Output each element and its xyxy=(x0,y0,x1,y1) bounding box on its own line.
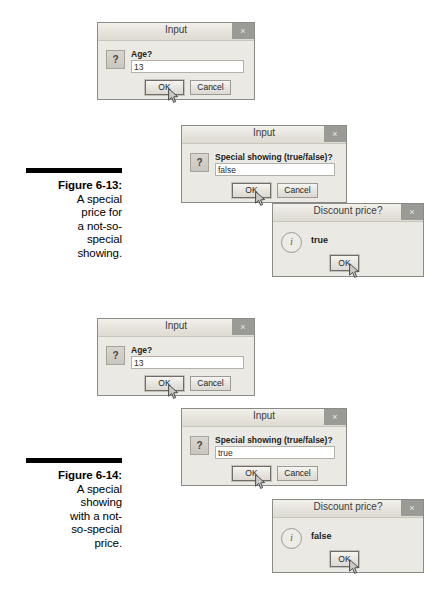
caption-line: special xyxy=(26,233,122,247)
field-label: Special showing (true/false)? xyxy=(215,152,333,162)
ok-button[interactable]: OK xyxy=(232,183,271,198)
ok-button[interactable]: OK xyxy=(330,551,359,567)
dialog-body: ? Age? 13 OK Cancel xyxy=(98,337,254,395)
dialog-discount-price-1[interactable]: Discount price? × i true OK xyxy=(272,203,424,277)
dialog-body: i true OK xyxy=(273,222,423,276)
info-icon: i xyxy=(281,232,302,253)
dialog-input-age-2[interactable]: Input × ? Age? 13 OK Cancel xyxy=(97,318,255,396)
close-icon[interactable]: × xyxy=(324,126,346,142)
caption-line: a not-so- xyxy=(26,220,122,234)
field-label: Age? xyxy=(131,49,152,59)
caption-line: price. xyxy=(26,537,122,551)
caption-text: Figure 6-13: A special price for a not-s… xyxy=(26,179,122,261)
dialog-title: Input xyxy=(98,320,254,331)
caption-rule xyxy=(26,458,122,463)
caption-line: showing xyxy=(26,496,122,510)
titlebar: Discount price? × xyxy=(273,500,423,518)
titlebar: Input × xyxy=(182,409,346,427)
question-icon: ? xyxy=(106,346,125,365)
close-icon[interactable]: × xyxy=(401,204,423,220)
message-text: true xyxy=(311,235,328,245)
question-icon: ? xyxy=(190,153,209,172)
dialog-input-special-showing-1[interactable]: Input × ? Special showing (true/false)? … xyxy=(181,125,347,203)
special-showing-input[interactable]: false xyxy=(215,163,335,176)
caption-line: A special xyxy=(26,483,122,497)
caption-line: so-special xyxy=(26,523,122,537)
caption-rule xyxy=(26,168,122,173)
figure-label: Figure 6-13: xyxy=(26,179,122,193)
question-icon: ? xyxy=(106,50,125,69)
age-input[interactable]: 13 xyxy=(131,60,244,73)
cancel-button[interactable]: Cancel xyxy=(277,466,318,481)
cancel-button[interactable]: Cancel xyxy=(190,376,231,391)
titlebar: Input × xyxy=(182,126,346,144)
ok-button[interactable]: OK xyxy=(330,255,359,271)
close-icon[interactable]: × xyxy=(401,500,423,516)
caption-line: A special xyxy=(26,193,122,207)
dialog-discount-price-2[interactable]: Discount price? × i false OK xyxy=(272,499,424,573)
special-showing-input[interactable]: true xyxy=(215,446,335,459)
caption-line: showing. xyxy=(26,247,122,261)
age-input[interactable]: 13 xyxy=(131,356,244,369)
dialog-input-age-1[interactable]: Input × ? Age? 13 OK Cancel xyxy=(97,22,255,100)
close-icon[interactable]: × xyxy=(324,409,346,425)
ok-button[interactable]: OK xyxy=(145,80,184,95)
close-icon[interactable]: × xyxy=(232,23,254,39)
figure-6-13-caption: Figure 6-13: A special price for a not-s… xyxy=(26,168,122,261)
titlebar: Input × xyxy=(98,23,254,41)
dialog-title: Input xyxy=(182,410,346,421)
close-icon[interactable]: × xyxy=(232,319,254,335)
info-icon: i xyxy=(281,528,302,549)
message-text: false xyxy=(311,531,332,541)
caption-text: Figure 6-14: A special showing with a no… xyxy=(26,469,122,551)
cancel-button[interactable]: Cancel xyxy=(277,183,318,198)
titlebar: Discount price? × xyxy=(273,204,423,222)
field-label: Age? xyxy=(131,345,152,355)
dialog-body: ? Special showing (true/false)? true OK … xyxy=(182,427,346,485)
dialog-body: ? Age? 13 OK Cancel xyxy=(98,41,254,99)
figure-label: Figure 6-14: xyxy=(26,469,122,483)
dialog-title: Input xyxy=(98,24,254,35)
titlebar: Input × xyxy=(98,319,254,337)
dialog-body: i false OK xyxy=(273,518,423,572)
caption-line: with a not- xyxy=(26,510,122,524)
dialog-input-special-showing-2[interactable]: Input × ? Special showing (true/false)? … xyxy=(181,408,347,486)
question-icon: ? xyxy=(190,436,209,455)
ok-button[interactable]: OK xyxy=(145,376,184,391)
field-label: Special showing (true/false)? xyxy=(215,435,333,445)
cancel-button[interactable]: Cancel xyxy=(190,80,231,95)
figure-6-14-caption: Figure 6-14: A special showing with a no… xyxy=(26,458,122,551)
ok-button[interactable]: OK xyxy=(232,466,271,481)
dialog-body: ? Special showing (true/false)? false OK… xyxy=(182,144,346,202)
caption-line: price for xyxy=(26,206,122,220)
dialog-title: Input xyxy=(182,127,346,138)
